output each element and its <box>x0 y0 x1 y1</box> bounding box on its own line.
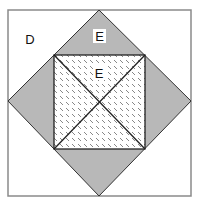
geometry-figure: D E E <box>0 0 200 203</box>
label-e-inner: E <box>95 66 104 81</box>
label-e-top: E <box>95 29 104 44</box>
label-d: D <box>25 32 34 47</box>
